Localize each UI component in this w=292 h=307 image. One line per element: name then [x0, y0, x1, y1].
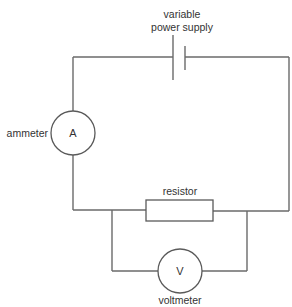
voltmeter-label: voltmeter [158, 294, 202, 306]
resistor-box [146, 200, 213, 221]
circuit-canvas: variable power supply A ammeter resistor… [0, 0, 292, 307]
power-supply-symbol [173, 35, 185, 80]
resistor-label: resistor [163, 185, 198, 197]
power-supply-label-line1: variable [164, 8, 201, 20]
circuit-diagram: variable power supply A ammeter resistor… [0, 0, 292, 307]
voltmeter-symbol: V [176, 265, 184, 277]
power-supply-label-line2: power supply [151, 21, 214, 33]
ammeter-symbol: A [69, 127, 77, 139]
ammeter-label: ammeter [7, 127, 49, 139]
